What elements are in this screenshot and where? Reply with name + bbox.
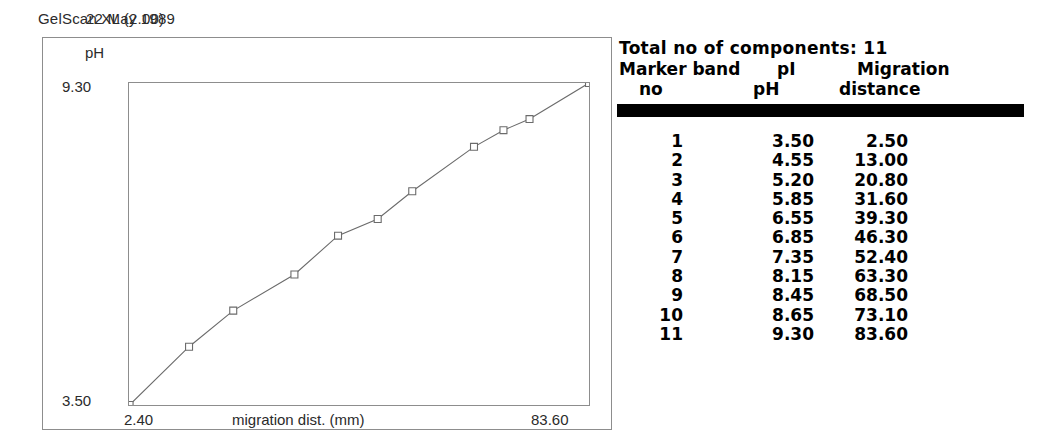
column-header-pi: pI — [777, 59, 796, 79]
cell-migration-distance: 39.30 — [832, 208, 908, 228]
cell-ph: 4.55 — [748, 150, 814, 170]
data-point-marker — [335, 232, 342, 239]
cell-marker-no: 5 — [671, 208, 683, 228]
cell-migration-distance: 13.00 — [832, 150, 908, 170]
cell-marker-no: 7 — [671, 247, 683, 267]
data-point-marker — [586, 83, 589, 86]
column-header-marker-band: Marker band — [619, 59, 740, 79]
data-point-marker — [230, 307, 237, 314]
ph-migration-line-chart — [129, 83, 589, 405]
cell-ph: 3.50 — [748, 131, 814, 151]
cell-marker-no: 1 — [671, 131, 683, 151]
cell-migration-distance: 46.30 — [832, 227, 908, 247]
table-row: 119.3083.60 — [617, 324, 1050, 343]
x-axis-min-tick-label: 2.40 — [124, 411, 153, 428]
cell-marker-no: 3 — [671, 170, 683, 190]
table-row: 108.6573.10 — [617, 305, 1050, 324]
cell-marker-no: 10 — [659, 305, 683, 325]
cell-marker-no: 8 — [671, 266, 683, 286]
chart-panel: GelScan XL (2.00) 22 May 1989 pH 9.30 3.… — [0, 0, 620, 447]
table-row: 77.3552.40 — [617, 247, 1050, 266]
cell-marker-no: 6 — [671, 227, 683, 247]
cell-ph: 5.85 — [748, 189, 814, 209]
table-row: 56.5539.30 — [617, 208, 1050, 227]
cell-ph: 8.15 — [748, 266, 814, 286]
cell-migration-distance: 52.40 — [832, 247, 908, 267]
column-header-ph: pH — [753, 79, 779, 99]
gelscan-report-window: GelScan XL (2.00) 22 May 1989 pH 9.30 3.… — [0, 0, 1050, 447]
cell-ph: 7.35 — [748, 247, 814, 267]
cell-migration-distance: 2.50 — [832, 131, 908, 151]
y-axis-max-tick-label: 9.30 — [62, 78, 91, 95]
total-components-label: Total no of components: 11 — [619, 38, 888, 58]
cell-ph: 6.85 — [748, 227, 814, 247]
cell-migration-distance: 31.60 — [832, 189, 908, 209]
data-point-marker — [186, 343, 193, 350]
data-point-marker — [129, 402, 133, 405]
cell-ph: 5.20 — [748, 170, 814, 190]
data-point-marker — [374, 216, 381, 223]
cell-ph: 8.65 — [748, 305, 814, 325]
data-point-marker — [526, 116, 533, 123]
plot-area — [128, 82, 590, 406]
data-line — [130, 83, 589, 405]
cell-ph: 8.45 — [748, 285, 814, 305]
table-row: 88.1563.30 — [617, 266, 1050, 285]
table-row: 45.8531.60 — [617, 189, 1050, 208]
table-row: 66.8546.30 — [617, 227, 1050, 246]
cell-migration-distance: 73.10 — [832, 305, 908, 325]
data-point-marker — [471, 143, 478, 150]
column-header-distance: distance — [839, 79, 920, 99]
column-header-migration: Migration — [857, 59, 950, 79]
table-row: 98.4568.50 — [617, 285, 1050, 304]
cell-marker-no: 9 — [671, 285, 683, 305]
table-row: 13.502.50 — [617, 131, 1050, 150]
data-point-marker — [409, 188, 416, 195]
cell-ph: 6.55 — [748, 208, 814, 228]
table-row: 35.2020.80 — [617, 170, 1050, 189]
x-axis-max-tick-label: 83.60 — [531, 411, 569, 428]
data-point-marker — [500, 127, 507, 134]
cell-migration-distance: 68.50 — [832, 285, 908, 305]
data-markers — [129, 83, 589, 405]
table-header-row-1: Marker band pI Migration — [617, 59, 1050, 80]
data-point-marker — [291, 271, 298, 278]
table-header-rule — [617, 104, 1024, 117]
marker-band-table: Total no of components: 11 Marker band p… — [617, 0, 1050, 447]
y-axis-min-tick-label: 3.50 — [62, 392, 91, 409]
x-axis-title: migration dist. (mm) — [232, 411, 365, 428]
cell-migration-distance: 63.30 — [832, 266, 908, 286]
cell-marker-no: 2 — [671, 150, 683, 170]
report-date: 22 May 1989 — [86, 10, 175, 27]
table-body: 13.502.5024.5513.0035.2020.8045.8531.605… — [617, 131, 1050, 343]
y-axis-title: pH — [85, 44, 104, 61]
cell-ph: 9.30 — [748, 324, 814, 344]
cell-marker-no: 4 — [671, 189, 683, 209]
cell-migration-distance: 83.60 — [832, 324, 908, 344]
table-header-row-2: no pH distance — [617, 79, 1050, 100]
cell-migration-distance: 20.80 — [832, 170, 908, 190]
table-row: 24.5513.00 — [617, 150, 1050, 169]
column-header-no: no — [639, 79, 663, 99]
cell-marker-no: 11 — [659, 324, 683, 344]
